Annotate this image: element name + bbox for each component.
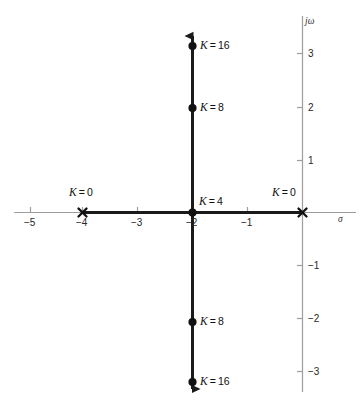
jw-axis-label: jω [305, 17, 314, 27]
sigma-tick-label--4: −4 [76, 218, 87, 228]
jw-tick-label--2: −2 [308, 314, 319, 324]
gain-dot-k4 [188, 208, 196, 216]
gain-dot-k8-upper [188, 104, 196, 112]
gain-label-k0-left: K = 0 [69, 187, 93, 199]
gain-label-k8-lower: K = 8 [200, 316, 224, 328]
sigma-axis-label: σ [338, 215, 343, 225]
gain-label-k0-origin: K = 0 [272, 187, 296, 199]
gain-label-k16-upper: K = 16 [200, 40, 230, 52]
sigma-tick-label--5: −5 [24, 218, 35, 228]
sigma-tick-label--1: −1 [241, 218, 252, 228]
gain-label-k16-lower: K = 16 [200, 376, 230, 388]
jw-tick-label-2: 2 [308, 103, 314, 113]
gain-dot-k8-lower [188, 318, 196, 326]
gain-dot-k16-lower [188, 378, 196, 386]
plot-canvas [0, 0, 364, 420]
root-locus-figure: −5 −4 −3 −2 −1 3 2 1 −1 −2 −3 jω σ K = 0… [0, 0, 364, 420]
gain-label-k4: K = 4 [199, 196, 223, 208]
gain-label-k8-upper: K = 8 [200, 102, 224, 114]
sigma-tick-label--2: −2 [186, 218, 197, 228]
gain-dot-k16-upper [188, 42, 196, 50]
sigma-tick-label--3: −3 [131, 218, 142, 228]
jw-tick-label-3: 3 [308, 49, 314, 59]
jw-tick-label-1: 1 [308, 156, 314, 166]
jw-tick-label--1: −1 [308, 261, 319, 271]
jw-tick-label--3: −3 [308, 367, 319, 377]
